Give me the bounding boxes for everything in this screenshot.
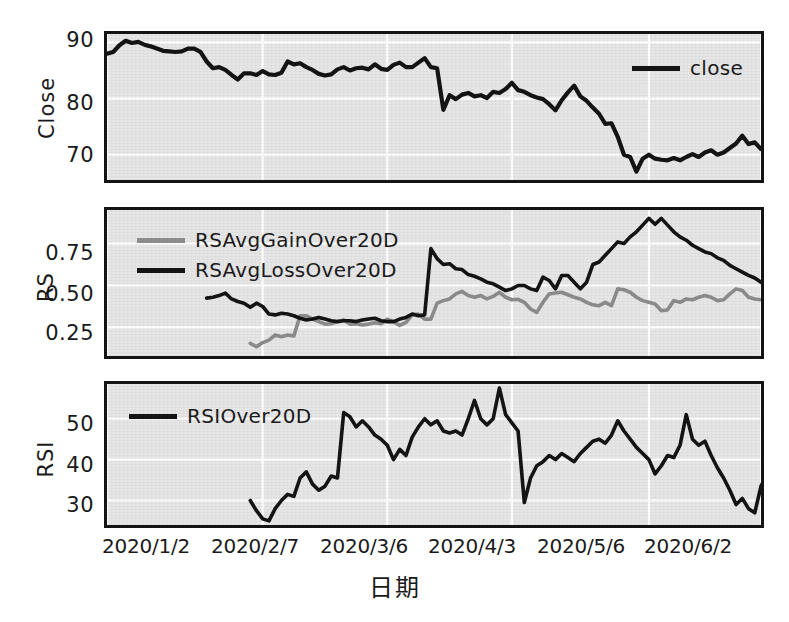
rsavgloss-legend-swatch bbox=[137, 268, 185, 273]
rsi-panel: RSIOver20D bbox=[104, 381, 764, 528]
legend-item-rsavgloss: RSAvgLossOver20D bbox=[137, 258, 399, 282]
rs-ytick-075: 0.75 bbox=[22, 241, 94, 265]
x-axis-title: 日期 bbox=[0, 568, 789, 603]
rsi-ytick-50: 50 bbox=[46, 412, 94, 436]
close-ytick-80: 80 bbox=[46, 91, 94, 115]
rsi-legend: RSIOver20D bbox=[129, 404, 311, 428]
xtick-2: 2020/3/6 bbox=[304, 534, 424, 558]
rsi-chart-figure: Close 90 80 70 close RS 0.75 0.50 0.25 R… bbox=[0, 0, 789, 622]
close-ytick-90: 90 bbox=[46, 28, 94, 52]
rs-panel: RSAvgGainOver20D RSAvgLossOver20D bbox=[104, 207, 764, 359]
legend-item-rsiover20d: RSIOver20D bbox=[129, 404, 311, 428]
rsiover20d-legend-label: RSIOver20D bbox=[187, 404, 311, 428]
legend-item-close: close bbox=[632, 56, 743, 80]
rsavggain-legend-swatch bbox=[137, 238, 185, 243]
rsi-ytick-30: 30 bbox=[46, 493, 94, 517]
rs-ytick-025: 0.25 bbox=[22, 321, 94, 345]
xtick-3: 2020/4/3 bbox=[412, 534, 532, 558]
rs-ytick-050: 0.50 bbox=[22, 282, 94, 306]
close-legend-label: close bbox=[690, 56, 743, 80]
rsavgloss-legend-label: RSAvgLossOver20D bbox=[195, 258, 397, 282]
xtick-0: 2020/1/2 bbox=[86, 534, 206, 558]
legend-item-rsavggain: RSAvgGainOver20D bbox=[137, 228, 399, 252]
xtick-4: 2020/5/6 bbox=[521, 534, 641, 558]
rs-legend: RSAvgGainOver20D RSAvgLossOver20D bbox=[137, 228, 399, 282]
rsiover20d-legend-swatch bbox=[129, 414, 177, 419]
rsavggain-legend-label: RSAvgGainOver20D bbox=[195, 228, 399, 252]
close-panel: close bbox=[104, 31, 764, 183]
xtick-1: 2020/2/7 bbox=[195, 534, 315, 558]
xtick-5: 2020/6/2 bbox=[628, 534, 748, 558]
close-ytick-70: 70 bbox=[46, 143, 94, 167]
close-legend-swatch bbox=[632, 66, 680, 71]
rsi-ytick-40: 40 bbox=[46, 453, 94, 477]
close-legend: close bbox=[632, 56, 743, 80]
